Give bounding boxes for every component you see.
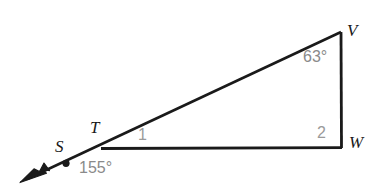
vertex-label-T: T	[90, 119, 99, 136]
angle-label-155-degrees: 155°	[79, 160, 112, 176]
vertex-label-S: S	[55, 138, 64, 155]
vertex-label-V: V	[347, 22, 357, 39]
segment-V-W-line	[341, 32, 342, 148]
segment-T-W-line	[101, 148, 342, 149]
geometry-figure: V W T S 63° 1 2 155°	[0, 0, 388, 187]
angle-label-63-degrees: 63°	[303, 49, 327, 65]
vertex-label-W: W	[349, 134, 363, 151]
ray-S-T-V-line	[27, 32, 341, 179]
angle-label-1: 1	[138, 127, 147, 143]
arrowhead-icon	[20, 163, 50, 183]
point-S-dot	[62, 160, 69, 167]
geometry-drawing	[0, 0, 388, 187]
angle-label-2: 2	[317, 125, 326, 141]
